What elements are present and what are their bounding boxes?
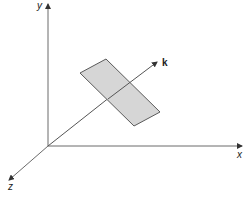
k-vector-label: k (162, 57, 168, 68)
z-axis (9, 146, 48, 180)
x-axis-label: x (236, 149, 243, 160)
z-axis-label: z (7, 181, 13, 192)
y-axis-label: y (36, 0, 43, 11)
k-vector-back (48, 97, 110, 146)
coordinate-diagram: y x z k (0, 0, 250, 201)
